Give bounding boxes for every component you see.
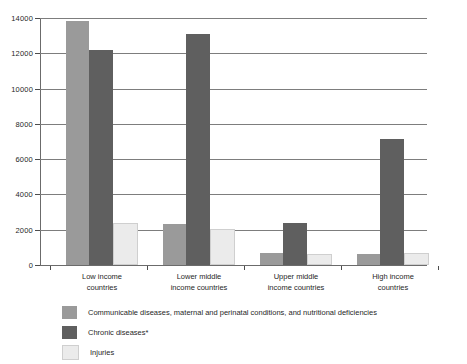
legend-item: Chronic diseases* (62, 324, 462, 341)
y-axis-tick-label: 6000 (16, 155, 34, 164)
bar (307, 254, 332, 265)
x-axis-tick-mark (341, 266, 342, 270)
x-axis-tick-mark (50, 266, 51, 270)
legend-label: Chronic diseases* (88, 328, 148, 337)
legend-item: Communicable diseases, maternal and peri… (62, 304, 462, 321)
legend-item: Injuries (62, 344, 462, 361)
bar-group (66, 18, 138, 265)
bar (380, 139, 403, 265)
y-axis-tick-label: 10000 (11, 84, 33, 93)
legend-swatch (62, 345, 79, 360)
y-axis-tick-mark (35, 265, 40, 266)
bar (260, 253, 283, 265)
bars-layer (40, 18, 427, 265)
legend-swatch (62, 326, 77, 339)
chart-legend: Communicable diseases, maternal and peri… (62, 304, 462, 364)
bar (113, 223, 138, 265)
x-axis-category-label: Lower middle income countries (163, 272, 235, 293)
x-axis-category-label: High income countries (357, 272, 429, 293)
legend-swatch (62, 306, 77, 319)
bar (163, 224, 186, 265)
bar-group (260, 18, 332, 265)
y-axis-tick-label: 12000 (11, 49, 33, 58)
y-axis-tick-label: 2000 (16, 225, 34, 234)
y-axis-tick-label: 14000 (11, 14, 33, 23)
x-axis-category-label: Upper middle income countries (260, 272, 332, 293)
legend-label: Communicable diseases, maternal and peri… (88, 308, 377, 317)
plot-area: 02000400060008000100001200014000 Low inc… (40, 18, 427, 266)
y-axis-tick-label: 0 (29, 261, 33, 270)
bar-group (163, 18, 235, 265)
x-axis-tick-mark (147, 266, 148, 270)
x-axis-category-label: Low income countries (66, 272, 138, 293)
x-axis-line (40, 265, 427, 266)
bar-group (357, 18, 429, 265)
bar (186, 34, 209, 265)
bar (404, 253, 429, 265)
x-axis-tick-mark (438, 266, 439, 270)
bar (66, 21, 89, 265)
y-axis-tick-label: 4000 (16, 190, 34, 199)
bar (89, 50, 112, 265)
bar (210, 229, 235, 265)
bar (283, 223, 306, 265)
x-axis-tick-mark (244, 266, 245, 270)
y-axis-tick-label: 8000 (16, 119, 34, 128)
legend-label: Injuries (90, 348, 114, 357)
bar (357, 254, 380, 265)
